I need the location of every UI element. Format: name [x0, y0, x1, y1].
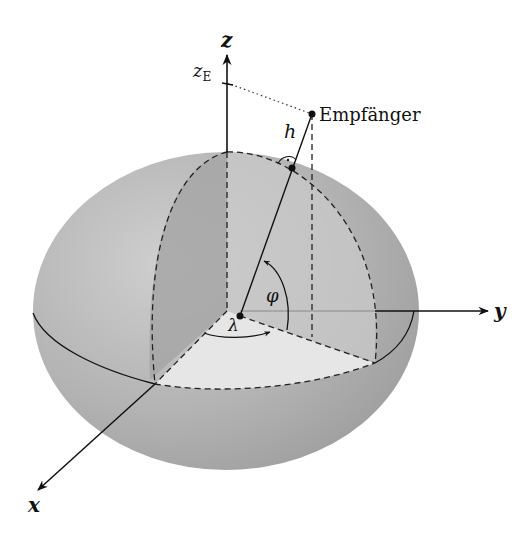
height-label: h [284, 120, 296, 142]
longitude-label: λ [227, 315, 239, 335]
surface-point [289, 165, 296, 172]
receiver-point [309, 111, 316, 118]
z-e-dotted-line [227, 83, 312, 114]
right-angle-dot [287, 159, 289, 161]
receiver-label: Empfänger [319, 104, 421, 125]
z-e-label: zE [192, 60, 211, 84]
latitude-label: φ [266, 285, 279, 306]
x-axis-label: x [27, 493, 41, 517]
z-axis-label: z [220, 28, 233, 52]
y-axis-label: y [493, 299, 507, 323]
ellipsoid-diagram: z zE Empfänger h φ λ y x [0, 0, 531, 536]
